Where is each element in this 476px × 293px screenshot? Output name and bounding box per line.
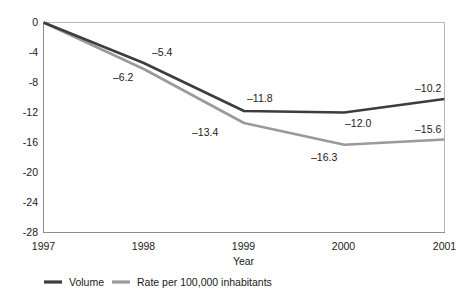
x-tick-label: 1997 xyxy=(32,240,56,252)
plot-frame xyxy=(44,23,445,233)
x-axis-tick-labels: 1997 1998 1999 2000 2001 xyxy=(32,240,457,252)
chart-legend: Volume Rate per 100,000 inhabitants xyxy=(44,276,272,288)
x-tick-label: 1998 xyxy=(132,240,156,252)
y-tick-label: -16 xyxy=(23,136,38,148)
data-label-rate-1998: –6.2 xyxy=(113,71,134,83)
x-tick-label: 2000 xyxy=(332,240,356,252)
data-label-volume-1999: –11.8 xyxy=(247,92,273,104)
data-label-volume-2001: –10.2 xyxy=(415,82,441,94)
line-chart: 0 -4 -8 -12 -16 -20 -24 -28 –5.4 –11.8 –… xyxy=(0,0,476,293)
rate-data-labels: –6.2 –13.4 –16.3 –15.6 xyxy=(113,71,441,163)
series-line-volume xyxy=(44,23,445,113)
y-tick-label: -28 xyxy=(23,226,38,238)
y-tick-label: 0 xyxy=(32,16,38,28)
y-tick-label: -8 xyxy=(29,76,38,88)
series-line-rate xyxy=(44,23,445,145)
data-label-volume-1998: –5.4 xyxy=(152,46,173,58)
y-tick-label: -12 xyxy=(23,106,38,118)
x-tick-label: 1999 xyxy=(232,240,256,252)
y-tick-label: -4 xyxy=(29,46,38,58)
y-axis-tick-labels: 0 -4 -8 -12 -16 -20 -24 -28 xyxy=(23,16,38,238)
chart-container: 0 -4 -8 -12 -16 -20 -24 -28 –5.4 –11.8 –… xyxy=(0,0,476,293)
x-axis-title: Year xyxy=(233,255,255,267)
data-label-rate-2001: –15.6 xyxy=(415,123,441,135)
legend-label-volume: Volume xyxy=(69,276,104,288)
data-label-rate-1999: –13.4 xyxy=(192,126,218,138)
data-label-rate-2000: –16.3 xyxy=(311,151,337,163)
y-tick-label: -24 xyxy=(23,196,38,208)
x-tick-label: 2001 xyxy=(433,240,457,252)
legend-label-rate: Rate per 100,000 inhabitants xyxy=(137,276,272,288)
y-tick-label: -20 xyxy=(23,166,38,178)
data-label-volume-2000: –12.0 xyxy=(345,117,371,129)
